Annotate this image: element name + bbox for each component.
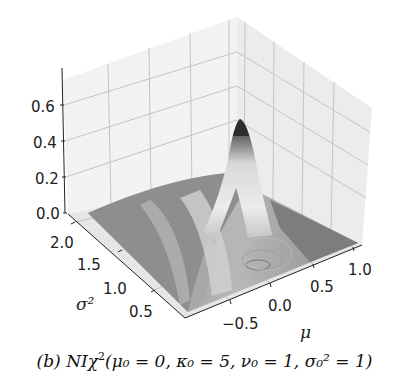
mu-tick-0.5: 0.5: [310, 278, 334, 296]
caption-params: (μ₀ = 0, κ₀ = 5, ν₀ = 1, σ₀² = 1): [105, 351, 372, 371]
caption-prefix: (b): [37, 351, 67, 371]
surface-plot: 0.6 0.4 0.2 0.0 2.0 1.5 1.0 0.5 σ² −0.5 …: [0, 0, 409, 384]
z-axis: 0.6 0.4 0.2 0.0: [31, 68, 67, 223]
sigma2-tick-2.0: 2.0: [50, 234, 74, 252]
sigma2-tick-1.0: 1.0: [103, 280, 127, 298]
mu-tick-0.0: 0.0: [268, 297, 292, 315]
z-tick-0.2: 0.2: [35, 170, 59, 188]
sigma2-tick-0.5: 0.5: [129, 303, 153, 321]
figure-caption: (b) NIχ2(μ₀ = 0, κ₀ = 5, ν₀ = 1, σ₀² = 1…: [0, 350, 409, 371]
caption-dist: NIχ: [66, 351, 98, 371]
mu-tick-neg0.5: −0.5: [222, 315, 258, 333]
caption-sup: 2: [98, 350, 105, 363]
mu-axis-label: μ: [300, 322, 311, 342]
mu-tick-1.0: 1.0: [348, 261, 372, 279]
z-tick-0.6: 0.6: [31, 98, 55, 116]
sigma2-tick-1.5: 1.5: [77, 256, 101, 274]
z-tick-0.4: 0.4: [33, 134, 57, 152]
sigma2-axis-label: σ²: [76, 294, 95, 314]
z-tick-0.0: 0.0: [36, 205, 60, 223]
